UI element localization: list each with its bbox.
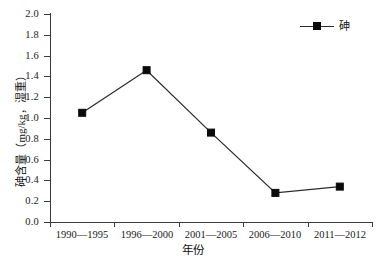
legend-line-swatch: [300, 26, 334, 27]
series-markers-arsenic: [79, 67, 344, 197]
series-layer: [0, 0, 386, 265]
data-point-marker: [79, 109, 86, 116]
data-point-marker: [143, 67, 150, 74]
chart-legend: 砷: [300, 20, 350, 32]
data-point-marker: [336, 183, 343, 190]
data-point-marker: [272, 189, 279, 196]
chart-container: 0.00.20.40.60.81.01.21.41.61.82.0 1990—1…: [0, 0, 386, 265]
data-point-marker: [208, 129, 215, 136]
legend-label-arsenic: 砷: [339, 20, 350, 32]
